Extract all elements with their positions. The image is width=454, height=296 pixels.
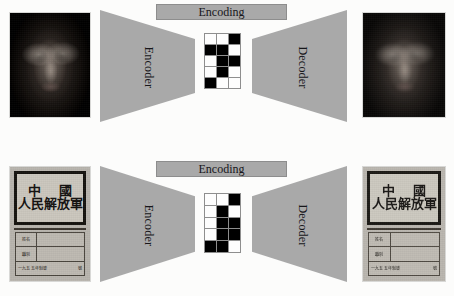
code-cell [217,206,228,217]
code-cell [205,56,216,66]
sign-table-row: 職別 [16,247,84,261]
sign-divider [367,228,441,230]
code-cell [217,241,228,252]
sign-footer-right: 號 [433,265,437,271]
code-cell [217,229,228,240]
decoder-label: Decoder [295,38,310,98]
input-image-face [9,12,91,118]
face-photo-input [10,13,90,117]
sign-table: 姓名 職別 一九五五年制發 號 [15,232,85,276]
sign-divider [14,228,86,230]
sign-table-row: 姓名 [16,233,84,247]
sign-table-value [391,247,439,260]
sign-table-label: 職別 [16,247,37,260]
code-cell [229,241,240,252]
code-cell [217,34,228,44]
autoencoder-figure: Encoder Encoding Decoder [0,0,454,296]
code-cell [229,56,240,66]
input-image-sign: 中 國 人民解放軍 姓名 職別 一九五五年制發 號 [9,166,91,282]
code-cell [217,67,228,77]
code-cell [205,194,216,205]
encoder-label: Encoder [141,38,156,98]
chinese-sign-output: 中 國 人民解放軍 姓名 職別 一九五五年制發 號 [363,167,445,281]
code-cell [229,218,240,229]
sign-footer-left: 一九五五年制發 [371,265,400,271]
sign-headline-box: 中 國 人民解放軍 [367,171,441,225]
code-cell [205,206,216,217]
code-cell [205,241,216,252]
chinese-sign-input: 中 國 人民解放軍 姓名 職別 一九五五年制發 號 [10,167,90,281]
sign-table-row: 職別 [369,247,439,261]
sign-table-value [37,233,84,246]
code-cell [217,78,228,88]
code-cell [205,229,216,240]
code-cell [229,78,240,88]
sign-headline-box: 中 國 人民解放軍 [14,171,86,225]
output-image-face [362,12,446,118]
code-cell [229,229,240,240]
sign-table: 姓名 職別 一九五五年制發 號 [368,232,440,276]
code-cell [217,45,228,55]
sign-table-label: 職別 [369,247,391,260]
sign-table-row: 姓名 [369,233,439,247]
face-photo-output [363,13,445,117]
code-cell [205,67,216,77]
code-cell [229,34,240,44]
sign-table-label: 姓名 [16,233,37,246]
code-cell [205,34,216,44]
code-cell [229,45,240,55]
autoencoder-row-face: Encoder Encoding Decoder [0,0,454,148]
code-cell [217,194,228,205]
decoder-label: Decoder [295,196,310,256]
sign-footer-right: 號 [78,265,82,271]
sign-headline-line2: 人民解放軍 [372,197,437,212]
sign-table-label: 姓名 [369,233,391,246]
code-cell [229,67,240,77]
code-cell [229,206,240,217]
code-cell [205,218,216,229]
encoding-banner: Encoding [156,161,287,177]
sign-table-footer: 一九五五年制發 號 [16,262,84,275]
latent-code-grid [204,33,241,89]
sign-table-footer: 一九五五年制發 號 [369,262,439,275]
sign-footer-left: 一九五五年制發 [18,265,47,271]
sign-table-value [391,233,439,246]
code-cell [229,194,240,205]
encoder-label: Encoder [141,196,156,256]
code-cell [205,45,216,55]
output-image-sign: 中 國 人民解放軍 姓名 職別 一九五五年制發 號 [362,166,446,282]
sign-headline-line2: 人民解放軍 [18,197,83,212]
autoencoder-row-sign: 中 國 人民解放軍 姓名 職別 一九五五年制發 號 [0,148,454,296]
code-cell [205,78,216,88]
encoding-banner: Encoding [156,4,287,20]
code-cell [217,218,228,229]
latent-code-grid [204,193,241,253]
code-cell [217,56,228,66]
sign-table-value [37,247,84,260]
